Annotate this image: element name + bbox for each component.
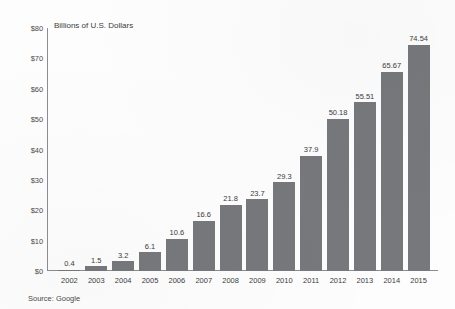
bar-value-label-2015: 74.54: [409, 35, 428, 43]
y-axis-tick-20: $20: [31, 206, 48, 215]
bar-group-2015: 74.542015: [405, 28, 432, 271]
bar-2014: [381, 72, 403, 271]
x-axis-tick-2014: 2014: [383, 276, 400, 285]
bar-group-2010: 29.32010: [271, 28, 298, 271]
bar-value-label-2008: 21.8: [223, 195, 238, 203]
bar-group-2006: 10.62006: [163, 28, 190, 271]
bar-group-2003: 1.52003: [83, 28, 110, 271]
bar-value-label-2007: 16.6: [196, 211, 211, 219]
bar-value-label-2014: 65.67: [382, 62, 401, 70]
x-axis-tick-2012: 2012: [330, 276, 347, 285]
bar-group-2007: 16.62007: [190, 28, 217, 271]
bar-value-label-2009: 23.7: [250, 190, 265, 198]
bar-value-label-2012: 50.18: [329, 109, 348, 117]
bar-2002: [58, 270, 80, 271]
bar-2015: [408, 45, 430, 271]
bar-2006: [166, 239, 188, 271]
bar-2013: [354, 102, 376, 271]
x-axis-tick-2006: 2006: [169, 276, 186, 285]
bar-2005: [139, 252, 161, 271]
bar-value-label-2006: 10.6: [170, 229, 185, 237]
bar-value-label-2004: 3.2: [118, 252, 128, 260]
bar-value-label-2003: 1.5: [91, 257, 101, 265]
y-axis-tick-50: $50: [31, 115, 48, 124]
bar-group-2009: 23.72009: [244, 28, 271, 271]
bar-value-label-2013: 55.51: [355, 93, 374, 101]
bar-2008: [220, 205, 242, 271]
y-axis-tick-70: $70: [31, 54, 48, 63]
x-axis-tick-2015: 2015: [410, 276, 427, 285]
bar-group-2011: 37.92011: [298, 28, 325, 271]
bar-group-2005: 6.12005: [137, 28, 164, 271]
y-axis-tick-40: $40: [31, 145, 48, 154]
bar-2004: [112, 261, 134, 271]
bar-group-2002: 0.42002: [56, 28, 83, 271]
x-axis-tick-2002: 2002: [61, 276, 78, 285]
bar-2011: [300, 156, 322, 271]
bar-chart-figure: Billions of U.S. Dollars $0$10$20$30$40$…: [0, 0, 455, 309]
x-axis-tick-2005: 2005: [142, 276, 159, 285]
x-axis-tick-2010: 2010: [276, 276, 293, 285]
bar-group-2013: 55.512013: [351, 28, 378, 271]
bar-2012: [327, 119, 349, 271]
bar-series: 0.420021.520033.220046.1200510.6200616.6…: [48, 28, 438, 271]
y-axis-tick-80: $80: [31, 24, 48, 33]
bar-group-2008: 21.82008: [217, 28, 244, 271]
source-note: Source: Google: [28, 294, 80, 303]
plot-area: $0$10$20$30$40$50$60$70$80 0.420021.5200…: [48, 28, 438, 271]
y-axis-tick-10: $10: [31, 236, 48, 245]
y-axis-tick-0: $0: [35, 267, 48, 276]
bar-2009: [246, 199, 268, 271]
bar-value-label-2011: 37.9: [304, 146, 319, 154]
x-axis-tick-2013: 2013: [357, 276, 374, 285]
x-axis-tick-2011: 2011: [303, 276, 319, 285]
x-axis-tick-2004: 2004: [115, 276, 132, 285]
x-axis-tick-2003: 2003: [88, 276, 105, 285]
y-axis-tick-60: $60: [31, 84, 48, 93]
bar-value-label-2005: 6.1: [145, 243, 155, 251]
bar-2010: [273, 182, 295, 271]
bar-value-label-2002: 0.4: [64, 260, 74, 268]
bar-group-2004: 3.22004: [110, 28, 137, 271]
y-axis-tick-30: $30: [31, 175, 48, 184]
bar-group-2012: 50.182012: [325, 28, 352, 271]
bar-2003: [85, 266, 107, 271]
x-axis-tick-2009: 2009: [249, 276, 266, 285]
x-axis-tick-2008: 2008: [222, 276, 239, 285]
x-axis-tick-2007: 2007: [195, 276, 212, 285]
bar-2007: [193, 221, 215, 271]
bar-value-label-2010: 29.3: [277, 173, 292, 181]
bar-group-2014: 65.672014: [378, 28, 405, 271]
